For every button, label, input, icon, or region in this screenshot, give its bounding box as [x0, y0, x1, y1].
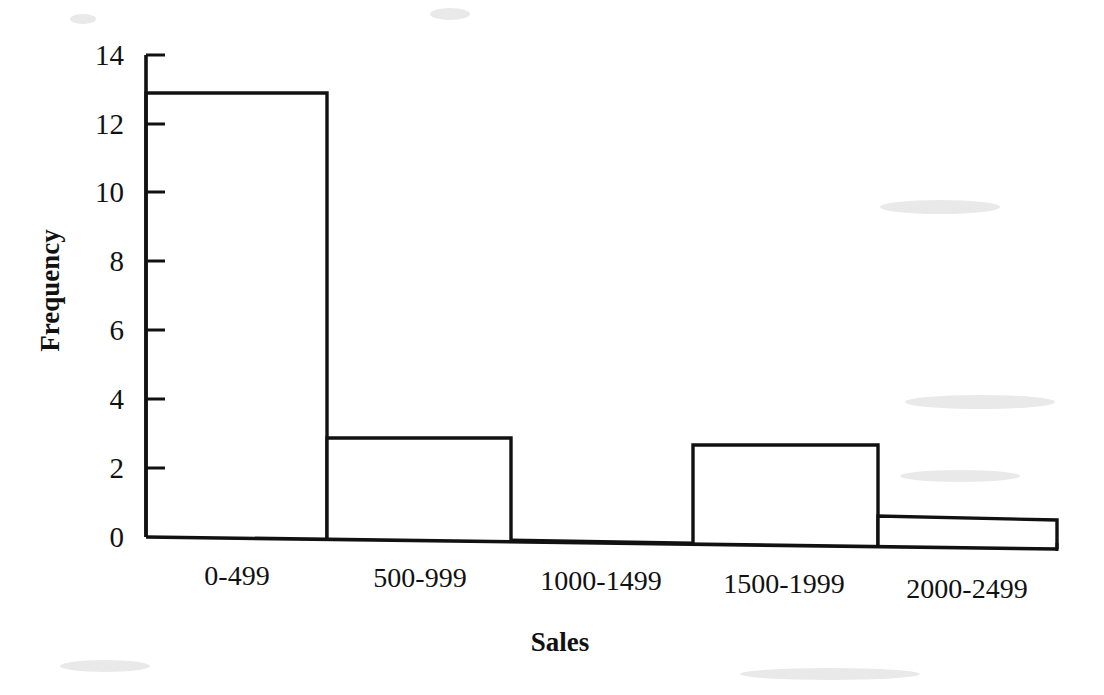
y-tick-label-8: 8 [76, 247, 124, 276]
x-tick-label-1000-1499: 1000-1499 [508, 567, 694, 595]
y-tick-label-14: 14 [76, 41, 124, 70]
y-tick-label-0: 0 [76, 523, 124, 552]
x-axis-title: Sales [470, 629, 650, 656]
y-tick-label-12: 12 [76, 110, 124, 139]
y-tick-label-4: 4 [76, 385, 124, 414]
y-tick-label-6: 6 [76, 316, 124, 345]
x-tick-label-2000-2499: 2000-2499 [874, 575, 1060, 603]
y-tick-label-2: 2 [76, 454, 124, 483]
bar-1500-1999 [693, 445, 878, 546]
x-tick-label-0-499: 0-499 [146, 562, 328, 590]
histogram-figure: 14 12 10 8 6 4 2 0 0-499 500-999 1000-14… [0, 0, 1104, 695]
y-tick-label-10: 10 [76, 178, 124, 207]
bars-group [146, 93, 1057, 549]
x-tick-label-500-999: 500-999 [328, 564, 512, 592]
x-tick-label-1500-1999: 1500-1999 [690, 570, 878, 598]
y-axis-title: Frequency [37, 211, 64, 371]
bar-2000-2499 [878, 516, 1057, 549]
bar-500-999 [327, 438, 511, 540]
bar-0-499 [146, 93, 327, 538]
